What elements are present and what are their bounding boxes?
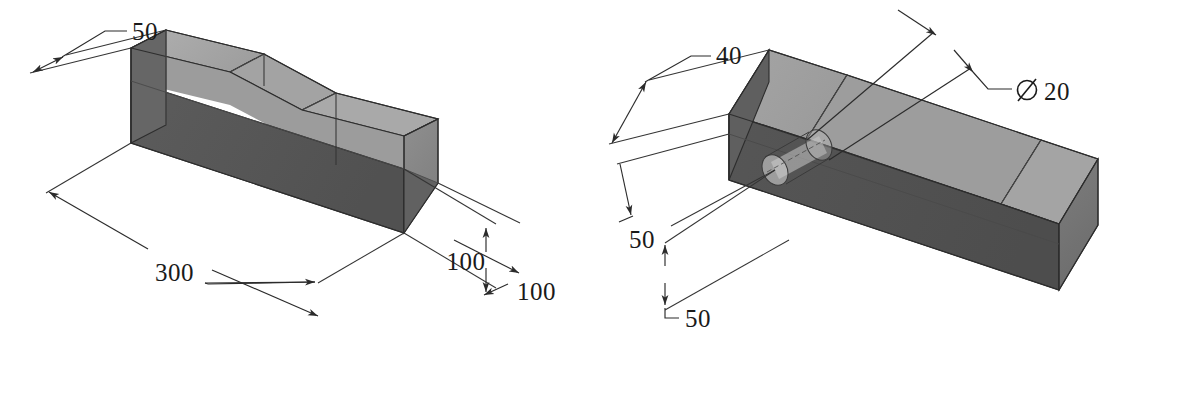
dim-label-50-upper: 50 [629, 226, 655, 253]
drawing-canvas: 50 300 100 [0, 0, 1189, 396]
left-block-svg: 50 300 100 [0, 0, 600, 396]
dim-label-hole-20: 20 [1044, 78, 1070, 105]
right-block-svg: 40 50 50 [589, 0, 1189, 396]
dia-arrow-lower [954, 50, 973, 72]
figure-left-block: 50 300 100 [0, 0, 600, 396]
diameter-symbol-icon [1018, 79, 1037, 101]
dim-label-50-lower: 50 [685, 305, 711, 332]
dim-label-100-vertical: 100 [447, 248, 486, 275]
dia-arrow-upper [898, 10, 936, 35]
figure-right-block: 40 50 50 [589, 0, 1189, 396]
dim-label-100-diagonal: 100 [517, 278, 556, 305]
dim-label-40: 40 [716, 42, 742, 69]
dim-label-300: 300 [155, 259, 194, 286]
dim-label-50: 50 [132, 18, 158, 45]
dimension-depth-100: 100 [438, 183, 556, 305]
